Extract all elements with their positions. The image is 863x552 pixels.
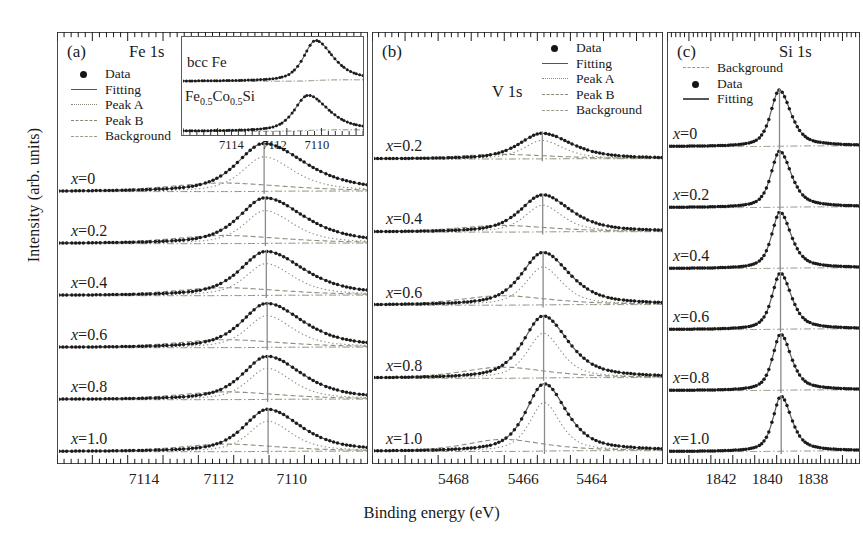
data-point — [123, 293, 127, 297]
data-point — [438, 156, 442, 160]
data-point — [115, 449, 119, 453]
data-point — [625, 299, 629, 303]
data-point — [648, 155, 652, 159]
data-point — [335, 441, 339, 445]
inset-data-point — [243, 128, 246, 131]
data-point — [713, 205, 717, 209]
data-point — [198, 446, 202, 450]
data-point — [585, 434, 589, 438]
data-point — [174, 239, 178, 243]
data-point — [387, 376, 391, 380]
data-point — [481, 154, 485, 158]
data-point — [554, 393, 558, 397]
data-point — [94, 449, 98, 453]
data-point — [617, 371, 621, 375]
data-point — [582, 357, 586, 361]
data-point — [446, 229, 450, 233]
data-point — [194, 289, 198, 293]
inset-data-point — [268, 126, 271, 129]
data-point — [361, 445, 365, 449]
data-point — [547, 316, 551, 320]
data-point — [422, 375, 426, 379]
inset-data-point — [358, 124, 361, 127]
data-point — [224, 171, 228, 175]
data-point — [457, 228, 461, 232]
data-point — [493, 152, 497, 156]
data-point — [504, 288, 508, 292]
data-point — [302, 427, 306, 431]
data-point — [227, 383, 231, 387]
data-point — [441, 374, 445, 378]
data-point — [64, 397, 68, 401]
data-point — [136, 397, 140, 401]
data-point — [194, 237, 198, 241]
inset-data-point — [336, 60, 339, 63]
data-point — [218, 229, 222, 233]
data-point — [632, 155, 636, 159]
data-point — [754, 261, 758, 265]
data-point — [601, 441, 605, 445]
data-point — [772, 349, 776, 353]
data-point — [81, 449, 85, 453]
data-point — [298, 265, 302, 269]
data-point — [774, 277, 778, 281]
data-point — [107, 189, 111, 193]
data-point — [244, 369, 248, 373]
data-point — [352, 234, 356, 238]
y-axis-label: Intensity (arb. units) — [25, 45, 43, 345]
data-point — [793, 303, 797, 307]
data-point — [617, 444, 621, 448]
data-point — [344, 390, 348, 394]
inset-data-point — [271, 125, 274, 128]
data-point — [379, 303, 383, 307]
data-point — [90, 293, 94, 297]
spectrum-curve — [669, 395, 859, 454]
data-point — [785, 222, 789, 226]
data-point — [395, 376, 399, 380]
data-point — [161, 240, 165, 244]
data-point — [539, 383, 543, 387]
data-point — [528, 328, 532, 332]
data-point — [136, 188, 140, 192]
data-point — [59, 345, 61, 349]
data-point — [90, 345, 94, 349]
data-point — [98, 397, 102, 401]
peak-a-trace — [59, 157, 367, 191]
data-point — [594, 221, 598, 225]
fitting-trace — [669, 334, 859, 390]
data-point — [754, 322, 758, 326]
data-point — [818, 385, 822, 389]
data-point — [86, 449, 90, 453]
data-point — [469, 228, 473, 232]
inset-data-point — [183, 79, 185, 82]
data-point — [818, 202, 822, 206]
data-point — [849, 387, 853, 391]
data-point — [764, 186, 768, 190]
inset-data-point — [234, 78, 237, 81]
inset-data-point — [246, 78, 249, 81]
data-point — [575, 144, 579, 148]
data-point — [523, 411, 527, 415]
data-point — [94, 241, 98, 245]
data-point — [637, 155, 641, 159]
data-point — [240, 426, 244, 430]
data-point — [153, 188, 157, 192]
data-point — [543, 315, 547, 319]
data-point — [387, 303, 391, 307]
data-point — [281, 255, 285, 259]
spectrum-curve — [59, 302, 367, 350]
data-point — [744, 386, 748, 390]
data-point — [672, 267, 676, 271]
data-point — [795, 369, 799, 373]
data-point — [340, 390, 344, 394]
data-point — [198, 341, 202, 345]
data-point — [403, 230, 407, 234]
data-point — [609, 443, 613, 447]
data-point — [744, 142, 748, 146]
inset-data-point — [218, 79, 221, 82]
data-point — [103, 189, 107, 193]
data-point — [551, 133, 555, 137]
data-point — [767, 305, 771, 309]
data-point — [797, 251, 801, 255]
data-point — [269, 302, 273, 306]
